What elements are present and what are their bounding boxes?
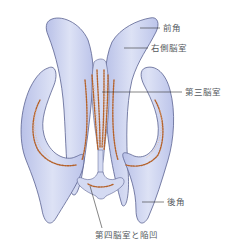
label-anterior-horn: 前角 (163, 24, 181, 33)
cerebral-aqueduct (98, 150, 103, 175)
ventricle-diagram (0, 0, 235, 249)
right-lateral-body (123, 67, 174, 223)
label-third-ventricle: 第三脳室 (185, 88, 221, 97)
label-right-lateral-ventricle: 右側脳室 (151, 44, 187, 53)
label-fourth-ventricle-recess: 第四脳室と陥凹 (95, 231, 158, 240)
label-posterior-horn: 後角 (167, 198, 185, 207)
